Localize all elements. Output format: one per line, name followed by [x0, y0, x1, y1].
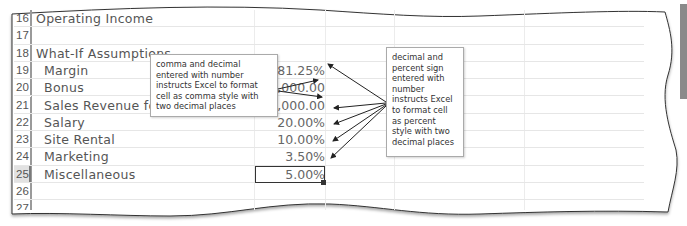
comma-style-callout: comma and decimal entered with number in… [150, 54, 278, 117]
callout-arrows [0, 0, 687, 226]
percent-style-callout: decimal and percent sign entered with nu… [386, 47, 464, 157]
torn-spreadsheet-excerpt: 16 Operating Income 17 18 What-If Assump… [0, 0, 687, 226]
side-tab-marker [680, 4, 687, 99]
